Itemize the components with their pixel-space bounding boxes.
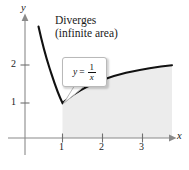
x-axis-arrow (169, 135, 177, 142)
formula-equals: = (79, 67, 84, 77)
diverges-annotation-line-2: (infinite area) (55, 27, 118, 40)
fraction-numerator: 1 (88, 63, 97, 72)
x-tick-label-1: 1 (59, 141, 64, 152)
diverges-annotation: Diverges (infinite area) (55, 14, 118, 40)
x-tick-label-2: 2 (99, 141, 104, 152)
y-tick-label-1: 1 (11, 96, 16, 107)
y-axis-label: y (21, 2, 26, 14)
figure-container: y = 1 x Diverges (infinite area) y x 1 2… (0, 0, 189, 170)
formula-lhs: y (73, 67, 77, 77)
x-tick-label-3: 3 (139, 141, 144, 152)
formula-content: y = 1 x (63, 58, 106, 86)
diverges-annotation-line-1: Diverges (55, 14, 118, 27)
formula-fraction: 1 x (88, 63, 97, 82)
y-axis-arrow (22, 14, 29, 22)
fraction-denominator: x (88, 73, 96, 82)
y-tick-label-2: 2 (11, 58, 16, 69)
x-axis-label: x (177, 130, 182, 142)
formula-callout-box: y = 1 x (62, 57, 107, 87)
